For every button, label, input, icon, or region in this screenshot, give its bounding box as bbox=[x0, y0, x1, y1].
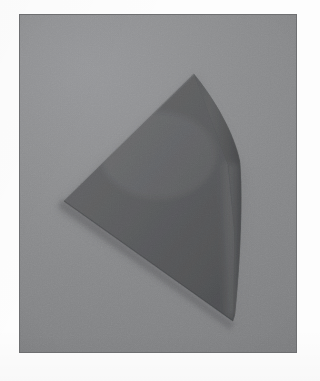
photo-caption: Photograph of a gray cone-shaped solid r… bbox=[0, 0, 1, 1]
photo-frame: Photograph of a gray cone-shaped solid r… bbox=[0, 0, 320, 381]
cone-object-layer bbox=[20, 15, 296, 352]
cone-front-highlight bbox=[100, 111, 216, 199]
photo-plate bbox=[19, 14, 297, 353]
cone-solid bbox=[20, 15, 297, 353]
